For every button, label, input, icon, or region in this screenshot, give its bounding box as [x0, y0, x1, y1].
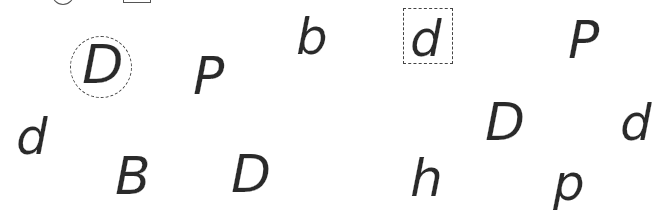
- letter-b[interactable]: b: [296, 12, 328, 62]
- letter-P[interactable]: P: [568, 14, 599, 66]
- letter-D[interactable]: D: [82, 38, 124, 92]
- partial-box-mark: [123, 0, 151, 3]
- letter-d[interactable]: d: [620, 98, 652, 148]
- partial-circle-mark: [52, 0, 74, 5]
- letter-d[interactable]: d: [16, 112, 48, 162]
- letter-p[interactable]: p: [553, 158, 585, 208]
- letter-P[interactable]: P: [193, 50, 224, 102]
- letter-D[interactable]: D: [485, 96, 525, 148]
- letter-D[interactable]: D: [231, 148, 271, 200]
- letter-h[interactable]: h: [410, 152, 443, 204]
- letter-d[interactable]: d: [410, 14, 442, 64]
- letter-B[interactable]: B: [115, 150, 151, 202]
